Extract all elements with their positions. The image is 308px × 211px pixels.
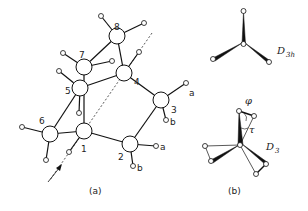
atom-7	[76, 59, 92, 75]
phi-label: φ	[245, 95, 252, 106]
atom-5	[72, 80, 88, 96]
atom-6	[42, 126, 58, 142]
tau-label: τ	[249, 124, 255, 135]
label-h-b3: b	[170, 117, 176, 127]
d3h-structure	[213, 12, 269, 63]
label-atom-4: 4	[134, 77, 140, 87]
label-h-a3: a	[189, 88, 195, 98]
atom-3	[153, 92, 169, 108]
label-atom-1: 1	[81, 144, 87, 154]
d3h-subscript: 3h	[286, 51, 295, 59]
panel-b-label: (b)	[228, 186, 241, 196]
label-atom-8: 8	[114, 22, 120, 32]
label-atom-5: 5	[65, 86, 71, 96]
atom-2	[122, 136, 138, 152]
label-h-a2: a	[160, 142, 166, 152]
label-atom-7: 7	[79, 50, 85, 60]
panel-a-label: (a)	[89, 186, 102, 196]
d3h-label: D	[276, 45, 285, 56]
atom-4	[116, 65, 132, 81]
label-h-b2: b	[137, 163, 143, 173]
molecule-diagram: 1 2 3 4 5 6 7 8 a b a b (a) D 3h φ τ	[0, 0, 308, 211]
d3-structure	[205, 111, 267, 174]
atom-1	[76, 123, 92, 139]
d3-subscript: 3	[275, 147, 280, 155]
d3-label: D	[265, 141, 274, 152]
label-atom-2: 2	[118, 152, 124, 162]
label-atom-3: 3	[171, 105, 177, 115]
label-atom-6: 6	[39, 116, 45, 126]
